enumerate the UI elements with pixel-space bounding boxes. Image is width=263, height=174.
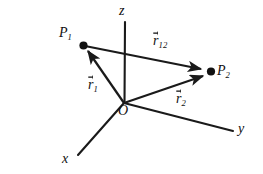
vector-r12-arrow <box>85 46 201 69</box>
vector-arrow-overbar-icon <box>176 88 181 94</box>
vector-r2-label: r 2 <box>176 92 186 107</box>
point-P2-label: P2 <box>217 64 230 79</box>
vector-arrow-overbar-icon <box>88 74 93 80</box>
vector-r2-subscript: 2 <box>181 98 186 108</box>
point-P1-base: P <box>59 25 68 40</box>
point-P1-subscript: 1 <box>68 32 73 42</box>
diagram-canvas <box>0 0 263 174</box>
vector-r1-subscript: 1 <box>93 84 98 94</box>
vector-arrow-overbar-icon <box>153 30 158 36</box>
vector-r2-arrow <box>124 76 203 103</box>
vector-r2-symbol: r <box>176 92 181 106</box>
vector-diagram-figure: z y x O P1 P2 r 12 r 1 <box>0 0 263 174</box>
vector-r12-label: r 12 <box>153 34 168 49</box>
vector-r1-label: r 1 <box>88 78 98 93</box>
point-P2-subscript: 2 <box>226 70 231 80</box>
y-axis-label: y <box>238 122 244 136</box>
origin-label: O <box>118 104 128 118</box>
point-P1-label: P1 <box>59 26 72 41</box>
point-P1-dot <box>79 41 87 49</box>
point-P2-base: P <box>217 63 226 78</box>
z-axis-line <box>125 22 126 103</box>
vector-r12-subscript: 12 <box>158 40 167 50</box>
x-axis-label: x <box>62 152 68 166</box>
vector-r12-symbol: r <box>153 34 158 48</box>
z-axis-label: z <box>119 4 124 18</box>
point-P2-dot <box>207 67 215 75</box>
vector-r1-symbol: r <box>88 78 93 92</box>
